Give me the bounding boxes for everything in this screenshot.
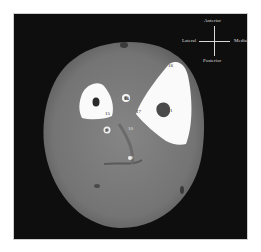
label-16: 16 [168, 63, 173, 68]
compass-posterior-label: Posterior [203, 58, 221, 63]
label-15: 15 [105, 111, 110, 116]
label-18: 18 [128, 155, 133, 160]
label-17: 17 [136, 109, 141, 114]
label-14: 14 [124, 96, 129, 101]
label-2: 2 [105, 128, 108, 133]
orientation-compass: Anterior Posterior Lateral Medial [182, 18, 248, 66]
label-1: 1 [170, 108, 173, 113]
compass-anterior-label: Anterior [204, 18, 221, 23]
label-10: 10 [128, 126, 133, 131]
compass-lateral-label: Lateral [182, 38, 196, 43]
ct-scan-panel: Anterior Posterior Lateral Medial 16 14 … [13, 13, 248, 240]
compass-medial-label: Medial [234, 38, 248, 43]
compass-horizontal-arrow-icon [199, 41, 230, 42]
